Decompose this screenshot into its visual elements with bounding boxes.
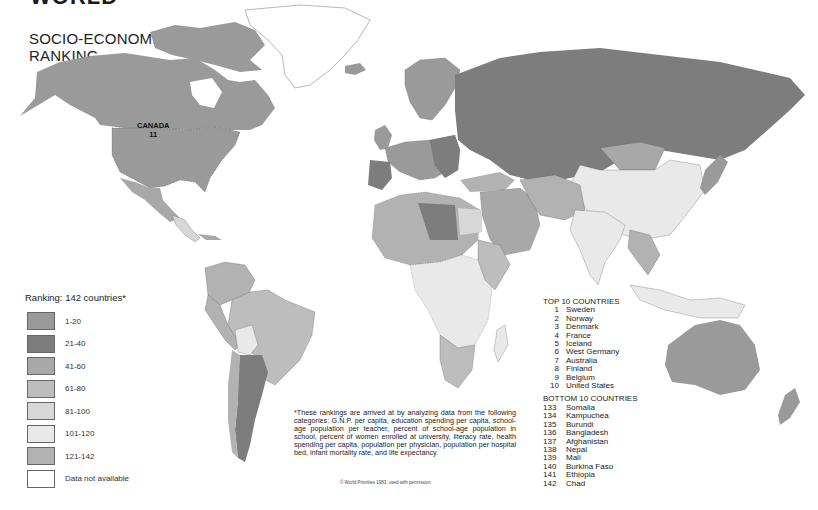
legend-label: 101-120 — [65, 429, 94, 438]
region-egypt — [458, 208, 482, 235]
legend-item: Data not available — [27, 468, 129, 491]
region-new-zealand — [778, 388, 800, 425]
legend-swatch — [27, 357, 55, 375]
legend-label: 61-80 — [65, 384, 85, 393]
region-central-africa — [410, 255, 492, 348]
legend-item: 81-100 — [27, 400, 129, 423]
region-japan — [700, 155, 728, 195]
rank-lists: TOP 10 COUNTRIES 1Sweden 2Norway 3Denmar… — [543, 298, 638, 488]
bottom10-row: 142Chad — [543, 480, 638, 488]
region-india — [570, 210, 625, 285]
legend-label: 1-20 — [65, 317, 81, 326]
region-iberia — [368, 160, 392, 190]
legend-item: 41-60 — [27, 355, 129, 378]
region-australia — [665, 320, 760, 395]
region-greenland — [245, 5, 370, 88]
legend-swatch — [27, 470, 55, 488]
legend-item: 21-40 — [27, 333, 129, 356]
canada-name: CANADA — [137, 121, 170, 130]
bottom10-row: 141Ethiopia — [543, 471, 638, 479]
legend-label: 21-40 — [65, 339, 85, 348]
region-indonesia — [630, 285, 745, 318]
legend-label: 81-100 — [65, 407, 90, 416]
region-central-america — [172, 215, 200, 242]
region-scandinavia — [405, 58, 460, 120]
region-madagascar — [494, 325, 508, 362]
region-uk — [374, 125, 392, 150]
legend-swatch — [27, 312, 55, 330]
legend-label: 41-60 — [65, 362, 85, 371]
legend-title: Ranking: 142 countries* — [25, 292, 129, 303]
legend-label: 121-142 — [65, 452, 94, 461]
legend-item: 121-142 — [27, 445, 129, 468]
methodology-footnote: *These rankings are arrived at by analyz… — [294, 409, 516, 456]
legend-swatch — [27, 447, 55, 465]
region-turkey — [460, 172, 515, 192]
canada-rank: 11 — [137, 130, 170, 139]
legend-swatch — [27, 402, 55, 420]
source-credit: © World Priorities 1983, used with permi… — [340, 480, 431, 485]
region-cuba — [198, 234, 222, 240]
bottom10-row: 138Nepal — [543, 446, 638, 454]
top10-row: 10United States — [543, 382, 638, 390]
canada-label: CANADA 11 — [137, 121, 170, 139]
legend-item: 1-20 — [27, 310, 129, 333]
legend-swatch — [27, 380, 55, 398]
legend-swatch — [27, 335, 55, 353]
legend-item: 61-80 — [27, 378, 129, 401]
legend-label: Data not available — [65, 474, 129, 483]
legend-item: 101-120 — [27, 423, 129, 446]
legend: Ranking: 142 countries* 1-20 21-40 41-60… — [27, 292, 129, 490]
region-argentina — [235, 355, 268, 462]
region-iceland — [345, 63, 366, 75]
bottom10-row: 137Afghanistan — [543, 438, 638, 446]
legend-swatch — [27, 425, 55, 443]
